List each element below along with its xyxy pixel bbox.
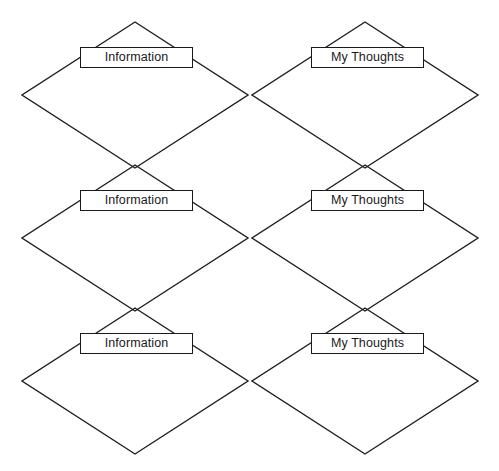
diamond-row1-col1 xyxy=(22,22,248,168)
label-text: Information xyxy=(105,194,169,207)
label-box-row2-information[interactable]: Information xyxy=(80,190,193,211)
diamond-row3-col2 xyxy=(252,308,478,454)
diamond-row2-col2 xyxy=(252,165,478,311)
label-text: My Thoughts xyxy=(331,337,404,350)
diamond-row3-col1 xyxy=(22,308,248,454)
label-text: My Thoughts xyxy=(331,194,404,207)
label-text: My Thoughts xyxy=(331,51,404,64)
diamond-row1-col2 xyxy=(252,22,478,168)
graphic-organizer-canvas: Information My Thoughts Information My T… xyxy=(0,0,499,471)
label-box-row1-my-thoughts[interactable]: My Thoughts xyxy=(311,47,424,68)
diamond-row2-col1 xyxy=(22,165,248,311)
label-text: Information xyxy=(105,51,169,64)
label-box-row1-information[interactable]: Information xyxy=(80,47,193,68)
label-box-row3-my-thoughts[interactable]: My Thoughts xyxy=(311,333,424,354)
label-box-row2-my-thoughts[interactable]: My Thoughts xyxy=(311,190,424,211)
label-box-row3-information[interactable]: Information xyxy=(80,333,193,354)
label-text: Information xyxy=(105,337,169,350)
diamond-diagram xyxy=(0,0,499,471)
